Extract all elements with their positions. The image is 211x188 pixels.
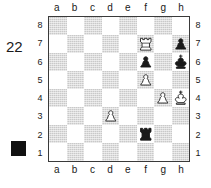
square-a2[interactable] [49, 125, 67, 143]
square-h8[interactable] [172, 17, 190, 35]
square-b2[interactable] [67, 125, 85, 143]
file-label: g [155, 1, 173, 15]
square-d1[interactable] [102, 143, 120, 161]
square-f6[interactable] [137, 53, 155, 71]
square-d8[interactable] [102, 17, 120, 35]
square-h3[interactable] [172, 107, 190, 125]
square-f2[interactable] [137, 125, 155, 143]
square-b6[interactable] [67, 53, 85, 71]
square-h2[interactable] [172, 125, 190, 143]
black-rook-icon[interactable] [137, 125, 155, 143]
rank-label: 5 [192, 71, 204, 89]
rank-label: 8 [192, 16, 204, 34]
square-c3[interactable] [84, 107, 102, 125]
square-d3[interactable] [102, 107, 120, 125]
white-pawn-icon[interactable] [154, 89, 172, 107]
file-label: b [66, 1, 84, 15]
white-rook-icon[interactable] [137, 35, 155, 53]
chess-diagram: 22 a b c d e f g h a b c d e f g h 8 7 6… [0, 0, 211, 188]
rank-label: 3 [34, 107, 46, 125]
square-d2[interactable] [102, 125, 120, 143]
square-c1[interactable] [84, 143, 102, 161]
square-f1[interactable] [137, 143, 155, 161]
square-a5[interactable] [49, 71, 67, 89]
file-label: c [84, 1, 102, 15]
white-pawn-icon[interactable] [102, 107, 120, 125]
square-h4[interactable] [172, 89, 190, 107]
file-label: a [48, 163, 66, 177]
square-h7[interactable] [172, 35, 190, 53]
square-a1[interactable] [49, 143, 67, 161]
square-e7[interactable] [119, 35, 137, 53]
square-c5[interactable] [84, 71, 102, 89]
square-g6[interactable] [154, 53, 172, 71]
square-f3[interactable] [137, 107, 155, 125]
square-e8[interactable] [119, 17, 137, 35]
file-label: f [137, 163, 155, 177]
file-labels-bottom: a b c d e f g h [48, 163, 190, 177]
square-a3[interactable] [49, 107, 67, 125]
square-a8[interactable] [49, 17, 67, 35]
file-label: h [172, 1, 190, 15]
square-e2[interactable] [119, 125, 137, 143]
square-c8[interactable] [84, 17, 102, 35]
square-g4[interactable] [154, 89, 172, 107]
square-c7[interactable] [84, 35, 102, 53]
rank-label: 6 [34, 53, 46, 71]
square-b1[interactable] [67, 143, 85, 161]
rank-labels-left: 8 7 6 5 4 3 2 1 [34, 16, 46, 162]
black-king-icon[interactable] [172, 53, 190, 71]
square-e6[interactable] [119, 53, 137, 71]
square-d7[interactable] [102, 35, 120, 53]
white-king-icon[interactable] [172, 89, 190, 107]
square-g5[interactable] [154, 71, 172, 89]
square-a4[interactable] [49, 89, 67, 107]
square-c2[interactable] [84, 125, 102, 143]
square-e3[interactable] [119, 107, 137, 125]
square-b3[interactable] [67, 107, 85, 125]
square-b7[interactable] [67, 35, 85, 53]
square-d6[interactable] [102, 53, 120, 71]
square-b8[interactable] [67, 17, 85, 35]
black-pawn-icon[interactable] [137, 53, 155, 71]
square-h5[interactable] [172, 71, 190, 89]
square-b4[interactable] [67, 89, 85, 107]
square-g8[interactable] [154, 17, 172, 35]
square-g7[interactable] [154, 35, 172, 53]
file-label: d [101, 1, 119, 15]
square-d4[interactable] [102, 89, 120, 107]
square-f5[interactable] [137, 71, 155, 89]
square-b5[interactable] [67, 71, 85, 89]
file-label: d [101, 163, 119, 177]
file-label: e [119, 1, 137, 15]
file-labels-top: a b c d e f g h [48, 1, 190, 15]
rank-label: 2 [192, 126, 204, 144]
square-e1[interactable] [119, 143, 137, 161]
square-f7[interactable] [137, 35, 155, 53]
square-e5[interactable] [119, 71, 137, 89]
rank-label: 8 [34, 16, 46, 34]
rank-label: 6 [192, 53, 204, 71]
rank-label: 5 [34, 71, 46, 89]
square-f4[interactable] [137, 89, 155, 107]
file-label: h [172, 163, 190, 177]
file-label: g [155, 163, 173, 177]
square-a6[interactable] [49, 53, 67, 71]
square-a7[interactable] [49, 35, 67, 53]
white-pawn-icon[interactable] [137, 71, 155, 89]
square-c6[interactable] [84, 53, 102, 71]
rank-label: 1 [34, 144, 46, 162]
black-pawn-icon[interactable] [172, 35, 190, 53]
square-g2[interactable] [154, 125, 172, 143]
square-g3[interactable] [154, 107, 172, 125]
square-h6[interactable] [172, 53, 190, 71]
square-d5[interactable] [102, 71, 120, 89]
square-f8[interactable] [137, 17, 155, 35]
square-e4[interactable] [119, 89, 137, 107]
file-label: c [84, 163, 102, 177]
rank-label: 4 [34, 89, 46, 107]
square-h1[interactable] [172, 143, 190, 161]
square-g1[interactable] [154, 143, 172, 161]
square-c4[interactable] [84, 89, 102, 107]
rank-labels-right: 8 7 6 5 4 3 2 1 [192, 16, 204, 162]
